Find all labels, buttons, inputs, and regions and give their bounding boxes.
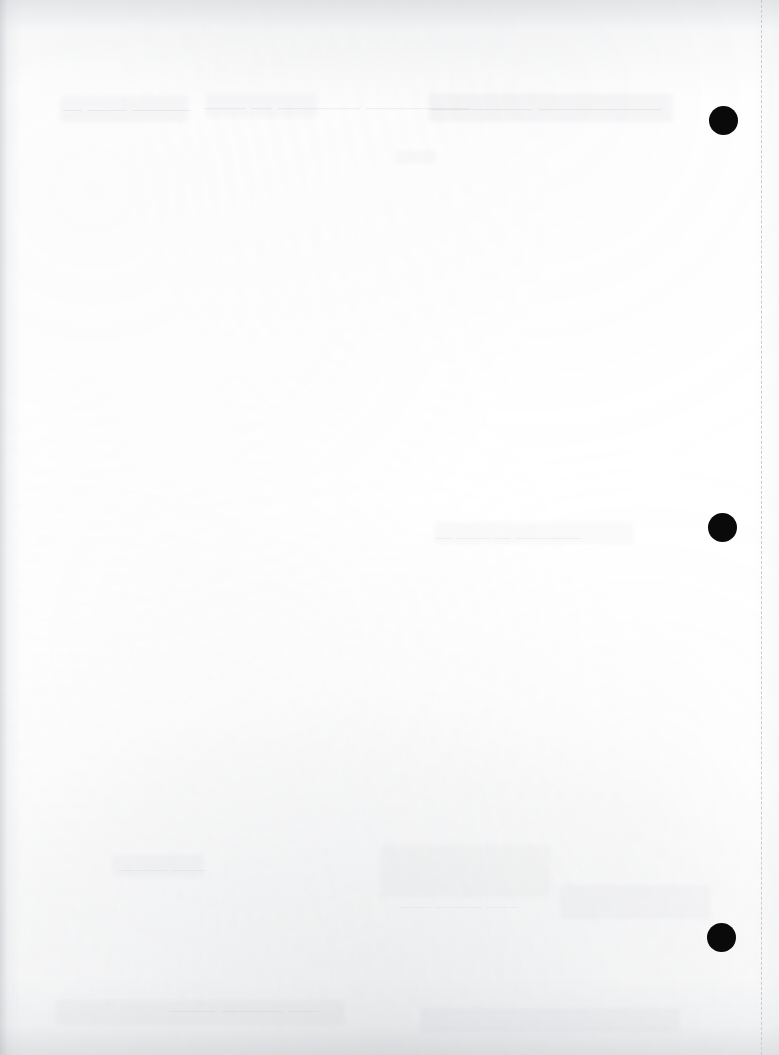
punch-hole-bottom-mark bbox=[707, 923, 736, 952]
punch-hole-middle-mark bbox=[708, 513, 737, 542]
scanned-page: — —— ————— — ———— —————————— ——————— —— … bbox=[0, 0, 779, 1055]
punch-hole-top-mark bbox=[709, 106, 738, 135]
paper-surface bbox=[0, 0, 779, 1055]
